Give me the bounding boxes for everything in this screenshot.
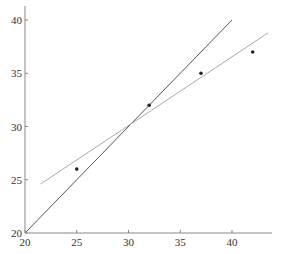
- scatter-chart: 2025303540 2025303540: [0, 0, 282, 254]
- y-tick-label: 25: [11, 174, 23, 186]
- y-tick-label: 30: [11, 121, 23, 133]
- y-tick-label: 40: [11, 14, 23, 26]
- data-point: [199, 71, 203, 75]
- x-tick-label: 30: [123, 236, 135, 248]
- identity-line: [25, 20, 232, 233]
- x-tick-label: 25: [71, 236, 83, 248]
- data-point: [75, 167, 79, 171]
- lines-layer: [25, 20, 268, 233]
- x-tick-label: 35: [175, 236, 187, 248]
- fit-line: [41, 33, 269, 184]
- y-tick-label: 20: [11, 227, 23, 239]
- data-point: [147, 103, 151, 107]
- y-tick-label: 35: [11, 67, 23, 79]
- points-layer: [75, 50, 255, 171]
- x-tick-label: 40: [227, 236, 239, 248]
- data-point: [251, 50, 255, 54]
